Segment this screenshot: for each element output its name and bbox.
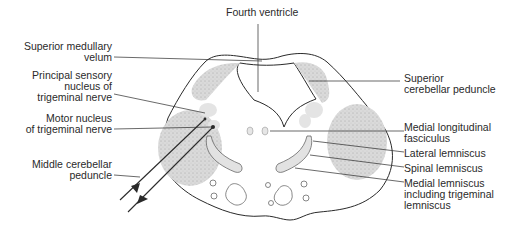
label-fourth-ventricle: Fourth ventricle (226, 7, 298, 18)
mlf-right (262, 127, 268, 135)
pons-diagram: Fourth ventricle Superior medullary velu… (0, 0, 521, 235)
principal-nucleus-dot (204, 118, 207, 121)
label-middle-cerebellar-peduncle: Middle cerebellar peduncle (32, 159, 112, 181)
label-lateral-lemniscus: Lateral lemniscus (404, 148, 486, 159)
label-medial-lemniscus: Medial lemniscus including trigeminal le… (404, 178, 494, 211)
label-motor-nucleus: Motor nucleus of trigeminal nerve (26, 113, 112, 135)
label-spinal-lemniscus: Spinal lemniscus (404, 163, 483, 174)
label-principal-sensory-nucleus: Principal sensory nucleus of trigeminal … (32, 70, 112, 103)
label-superior-medullary-velum: Superior medullary velum (24, 41, 112, 63)
principal-sensory-nucleus-left (199, 103, 217, 117)
mlf-left (247, 127, 253, 135)
label-medial-longitudinal-fasciculus: Medial longitudinal fasciculus (404, 122, 491, 144)
label-superior-cerebellar-peduncle: Superior cerebellar peduncle (404, 73, 496, 95)
motor-nucleus-right (299, 114, 311, 128)
arrow-efferent-icon (137, 195, 148, 204)
middle-cerebellar-peduncle-right (327, 104, 387, 180)
